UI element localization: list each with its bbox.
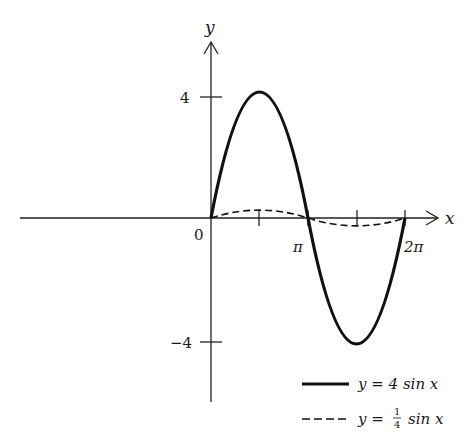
pi-label: π [292, 238, 304, 256]
x-axis-label: x [445, 208, 455, 228]
legend-dashed-y: y = [357, 410, 384, 428]
legend-dashed-rest: sin x [408, 410, 444, 428]
y-tick-label-4: 4 [180, 89, 190, 107]
y-tick-label-neg4: −4 [170, 334, 192, 352]
legend-solid-label: y = 4 sin x [357, 375, 439, 393]
legend-dashed-den: 4 [394, 419, 400, 430]
two-pi-label: 2π [403, 238, 425, 256]
origin-label: 0 [194, 226, 204, 244]
chart: y x 0 π 2π 4 −4 y = 4 sin x y = 1 4 sin … [0, 0, 467, 447]
legend-dashed-num: 1 [394, 406, 400, 417]
y-axis-label: y [204, 17, 215, 37]
